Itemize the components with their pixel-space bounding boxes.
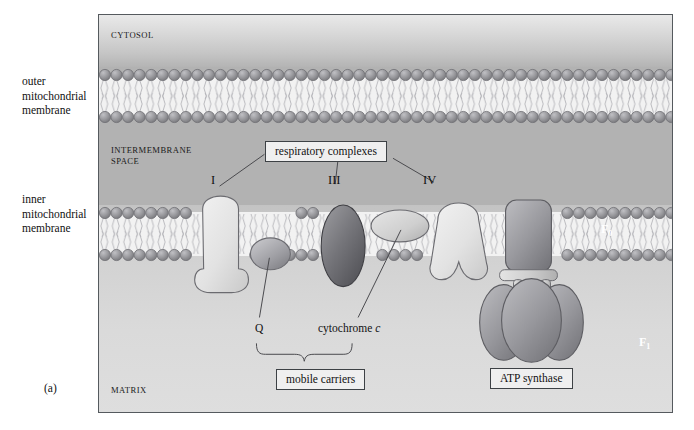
protein-complex-layer bbox=[99, 15, 672, 412]
panel-letter-label: (a) bbox=[44, 381, 57, 396]
outer-mitochondrial-membrane-label: outer mitochondrial membrane bbox=[22, 74, 102, 118]
ubiquinone-carrier bbox=[250, 238, 290, 270]
atp-synthase-callout: ATP synthase bbox=[490, 368, 573, 389]
cytochrome-c-label-italic: c bbox=[375, 322, 380, 334]
f1-subscript: 1 bbox=[646, 342, 650, 351]
mitochondrial-membrane-diagram: CYTOSOL INTERMEMBRANE SPACE MATRIX bbox=[98, 14, 673, 413]
f0-subscript: 0 bbox=[608, 229, 612, 238]
complex-i-shape bbox=[195, 196, 249, 293]
cytochrome-c-carrier bbox=[371, 210, 429, 242]
atp-synthase-f1-head bbox=[480, 279, 584, 363]
respiratory-complexes-callout: respiratory complexes bbox=[265, 141, 387, 162]
mobile-carriers-brace bbox=[256, 343, 352, 361]
cytochrome-c-label: cytochrome c bbox=[318, 322, 380, 334]
atp-synthase-f0-label: F0 bbox=[601, 222, 612, 238]
cytochrome-c-label-text: cytochrome bbox=[318, 322, 375, 334]
inner-mitochondrial-membrane-label: inner mitochondrial membrane bbox=[22, 192, 102, 236]
mobile-carriers-callout: mobile carriers bbox=[276, 369, 365, 390]
complex-iii-numeral: III bbox=[328, 173, 341, 188]
atp-synthase-f1-label: F1 bbox=[639, 335, 650, 351]
complex-iv-numeral: IV bbox=[423, 173, 436, 188]
figure-stage: outer mitochondrial membrane inner mitoc… bbox=[0, 0, 694, 430]
complex-i-numeral: I bbox=[211, 173, 215, 188]
complex-iv-shape bbox=[430, 203, 488, 280]
atp-synthase-f0-barrel bbox=[506, 200, 552, 272]
ubiquinone-label: Q bbox=[255, 322, 263, 334]
leader-line-complex-i bbox=[220, 154, 265, 186]
complex-iii-shape bbox=[321, 205, 365, 287]
